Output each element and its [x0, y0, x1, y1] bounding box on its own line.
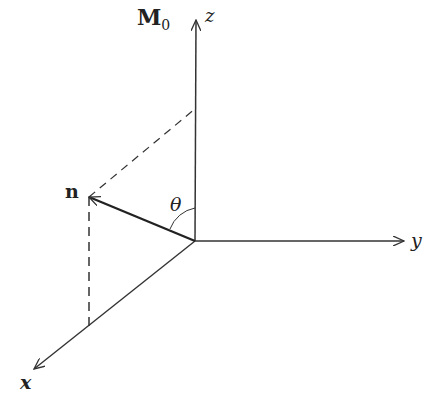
z-label: z: [205, 5, 214, 26]
m0-label: M0: [137, 4, 170, 33]
n-label: n: [65, 180, 79, 202]
z-axis: [195, 20, 196, 241]
m-subscript: 0: [161, 17, 170, 33]
m-text: M: [137, 4, 161, 30]
dashed-projection-z: [89, 108, 196, 197]
coordinate-diagram: M0 z y x n θ: [0, 0, 430, 401]
y-label: y: [411, 229, 422, 251]
x-label: x: [20, 371, 31, 393]
theta-label: θ: [170, 193, 181, 215]
x-axis: [34, 241, 195, 369]
